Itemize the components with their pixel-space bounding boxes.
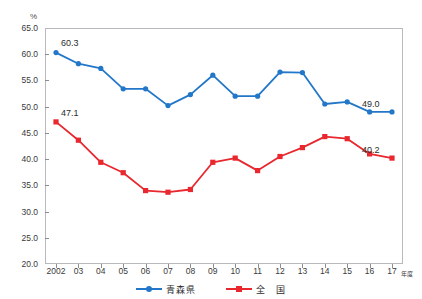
x-tick-mark [302, 264, 303, 268]
x-tick-mark [213, 264, 214, 268]
chart-container: % 65.060.055.050.045.040.035.030.025.020… [0, 0, 422, 299]
x-tick-mark [190, 264, 191, 268]
y-tick-label: 55.0 [4, 75, 38, 85]
x-tick-mark [370, 264, 371, 268]
y-tick-label: 25.0 [4, 233, 38, 243]
y-tick-label: 60.0 [4, 49, 38, 59]
y-tick-mark [45, 185, 49, 186]
legend-label-national: 全 国 [256, 283, 286, 296]
x-tick-mark [101, 264, 102, 268]
x-tick-mark [235, 264, 236, 268]
x-tick-mark [325, 264, 326, 268]
legend-marker-circle-icon [146, 286, 152, 292]
legend-item-national: 全 国 [226, 283, 286, 296]
data-label: 60.3 [61, 38, 79, 48]
y-tick-label: 35.0 [4, 180, 38, 190]
legend-marker-square-icon [236, 286, 242, 292]
x-tick-mark [78, 264, 79, 268]
y-tick-mark [45, 80, 49, 81]
y-tick-label: 50.0 [4, 102, 38, 112]
chart-legend: 青森県 全 国 [0, 281, 422, 297]
x-axis-unit-label: 年度 [401, 269, 413, 278]
x-tick-mark [347, 264, 348, 268]
y-tick-mark [45, 238, 49, 239]
x-tick-mark [392, 264, 393, 268]
data-label: 49.0 [362, 99, 380, 109]
legend-label-aomori: 青森県 [166, 283, 196, 296]
y-tick-mark [45, 54, 49, 55]
y-tick-mark [45, 133, 49, 134]
clipped-title [8, 0, 338, 9]
data-label: 47.1 [61, 108, 79, 118]
y-tick-label: 30.0 [4, 207, 38, 217]
y-tick-mark [45, 107, 49, 108]
y-tick-label: 45.0 [4, 128, 38, 138]
x-tick-mark [123, 264, 124, 268]
y-axis-unit-label: % [30, 12, 37, 21]
y-tick-mark [45, 212, 49, 213]
data-label: 40.2 [362, 145, 380, 155]
y-tick-mark [45, 159, 49, 160]
x-tick-mark [258, 264, 259, 268]
x-tick-mark [168, 264, 169, 268]
x-tick-mark [56, 264, 57, 268]
y-tick-label: 65.0 [4, 23, 38, 33]
x-tick-mark [146, 264, 147, 268]
y-tick-label: 20.0 [4, 259, 38, 269]
y-tick-label: 40.0 [4, 154, 38, 164]
x-tick-mark [280, 264, 281, 268]
plot-area [45, 28, 403, 264]
legend-item-aomori: 青森県 [136, 283, 196, 296]
